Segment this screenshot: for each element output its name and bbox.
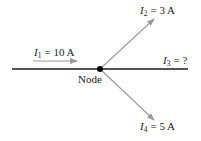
i1-label: I1= 10 A — [33, 46, 75, 60]
node-diagram: I1= 10 A Node I2= 3 A I3= ? I4= 5 A — [0, 0, 201, 141]
i3-label: I3= ? — [162, 54, 187, 68]
i2-label: I2= 3 A — [139, 4, 175, 18]
node-dot — [97, 66, 103, 72]
node-label: Node — [78, 73, 102, 85]
i4-label: I4= 5 A — [139, 120, 175, 134]
i4-arrow — [100, 69, 154, 120]
i2-arrow — [100, 19, 154, 69]
